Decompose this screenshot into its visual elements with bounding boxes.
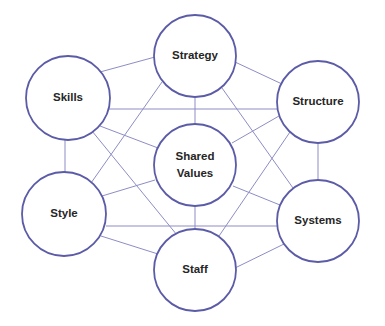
- node-strategy: Strategy: [154, 15, 236, 97]
- edge-skills-strategy: [100, 57, 155, 72]
- node-label: Structure: [292, 95, 343, 107]
- node-systems: Systems: [277, 180, 359, 262]
- node-skills: Skills: [26, 56, 110, 140]
- node-staff: Staff: [154, 229, 236, 311]
- node-label: Systems: [294, 214, 341, 226]
- seven-s-diagram: StrategySkillsStructureSharedValuesStyle…: [0, 0, 385, 326]
- edge-strategy-structure: [235, 62, 282, 84]
- node-structure: Structure: [277, 61, 359, 143]
- node-label: Style: [50, 207, 78, 219]
- node-label: Shared: [176, 150, 215, 162]
- nodes: StrategySkillsStructureSharedValuesStyle…: [22, 15, 359, 311]
- edge-shared_values-style: [102, 180, 155, 196]
- edge-shared_values-systems: [233, 186, 280, 205]
- edge-structure-shared_values: [232, 116, 279, 143]
- node-label: Staff: [182, 263, 208, 275]
- node-label: Skills: [53, 91, 83, 103]
- node-circle: [154, 124, 236, 206]
- edge-staff-systems: [235, 244, 284, 268]
- node-shared-values: SharedValues: [154, 124, 236, 206]
- node-label: Strategy: [172, 49, 219, 61]
- node-label: Values: [177, 167, 213, 179]
- edge-style-staff: [101, 236, 158, 254]
- node-style: Style: [22, 172, 106, 256]
